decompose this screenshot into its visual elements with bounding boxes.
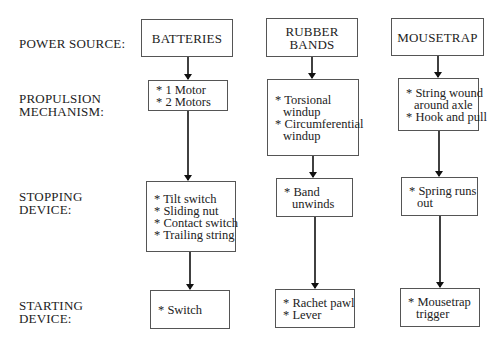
power-source-batteries-box: BATTERIES	[141, 19, 233, 57]
starting-mousetrap-box: * Mousetraptrigger	[400, 288, 480, 327]
item-text: * Hook and pull	[406, 110, 487, 124]
list-item: * Lever	[283, 309, 354, 321]
list-item: * Circumferentialwindup	[275, 118, 358, 142]
list-item: * Bandunwinds	[284, 186, 352, 210]
item-text: out	[409, 197, 477, 209]
starting-rubber-bands-box: * Rachet pawl * Lever	[275, 289, 355, 328]
propulsion-rubber-bands-box: * Torsionalwindup * Circumferentialwindu…	[267, 79, 359, 156]
box-text: BANDS	[289, 38, 334, 51]
list-item: * Trailing string	[154, 229, 235, 241]
list-item: * 2 Motors	[156, 96, 227, 108]
propulsion-mousetrap-box: * String woundaround axle * Hook and pul…	[398, 78, 479, 131]
item-text: unwinds	[284, 198, 352, 210]
propulsion-batteries-box: * 1 Motor * 2 Motors	[148, 80, 228, 111]
power-source-rubber-bands-box: RUBBER BANDS	[266, 18, 358, 57]
list-item: * Spring runsout	[409, 185, 477, 209]
list-item: * Mousetraptrigger	[408, 296, 479, 320]
box-text: MOUSETRAP	[397, 31, 478, 44]
list-item: * Hook and pull	[406, 111, 478, 123]
power-source-mousetrap-box: MOUSETRAP	[391, 18, 484, 56]
stopping-mousetrap-box: * Spring runsout	[401, 177, 478, 216]
item-text: windup	[275, 130, 358, 142]
item-text: * Lever	[283, 308, 322, 322]
item-text: * 2 Motors	[156, 95, 211, 109]
item-text: * Switch	[158, 303, 202, 317]
stopping-batteries-box: * Tilt switch * Sliding nut * Contact sw…	[146, 181, 236, 252]
starting-batteries-box: * Switch	[150, 290, 230, 329]
box-text: BATTERIES	[152, 32, 222, 45]
list-item: * Switch	[158, 304, 229, 316]
list-item: * Torsionalwindup	[275, 94, 358, 118]
stopping-rubber-bands-box: * Bandunwinds	[276, 178, 353, 217]
item-text: trigger	[408, 308, 479, 320]
item-text: * Trailing string	[154, 228, 235, 242]
box-text: RUBBER	[285, 25, 338, 38]
list-item: * String woundaround axle	[406, 87, 478, 111]
